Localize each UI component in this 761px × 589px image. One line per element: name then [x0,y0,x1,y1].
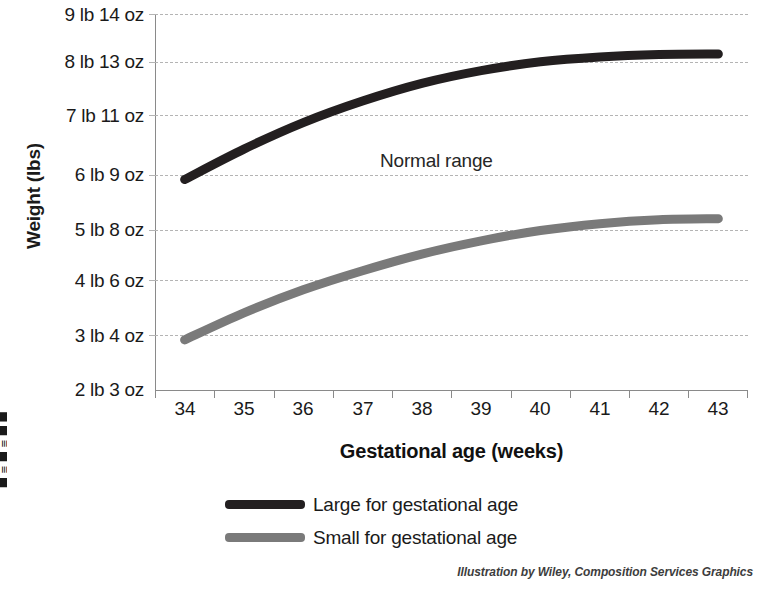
x-tick-mark [511,391,512,398]
x-tick-mark [451,391,452,398]
x-tick-mark [274,391,275,398]
x-tick-mark [333,391,334,398]
illustration-credit: Illustration by Wiley, Composition Servi… [457,565,753,579]
legend-item-large-for-gestational-age: Large for gestational age [225,488,645,521]
x-tick-label: 40 [510,398,570,420]
y-tick-label: 8 lb 13 oz [65,52,144,71]
x-tick-mark [155,391,156,398]
legend-swatch-small [225,533,305,542]
plot-area: Normal range [155,14,748,391]
x-axis-title: Gestational age (weeks) [155,440,748,463]
x-tick-mark [392,391,393,398]
y-tick-label: 9 lb 14 oz [65,5,144,24]
x-tick-mark [214,391,215,398]
x-tick-label: 35 [214,398,274,420]
x-tick-label: 41 [570,398,630,420]
legend-swatch-large [225,500,305,509]
x-axis-tick-labels: 34 35 36 37 38 39 40 41 42 43 [155,398,748,424]
y-tick-label: 2 lb 3 oz [75,380,144,399]
annotation-normal-range: Normal range [380,150,493,172]
x-tick-label: 36 [273,398,333,420]
x-tick-label: 34 [155,398,215,420]
x-tick-label: 38 [392,398,452,420]
y-tick-label: 3 lb 4 oz [75,326,144,345]
legend-label-small: Small for gestational age [313,527,517,549]
x-tick-mark [570,391,571,398]
series-curves [155,14,748,391]
y-axis-tick-labels: 9 lb 14 oz 8 lb 13 oz 7 lb 11 oz 6 lb 9 … [0,0,150,420]
x-tick-mark [747,391,748,398]
legend-label-large: Large for gestational age [313,494,518,516]
x-tick-label: 37 [333,398,393,420]
x-tick-label: 42 [629,398,689,420]
x-tick-mark [688,391,689,398]
y-tick-label: 7 lb 11 oz [66,106,144,125]
y-tick-label: 6 lb 9 oz [75,165,144,184]
legend-item-small-for-gestational-age: Small for gestational age [225,521,645,554]
x-tick-label: 43 [688,398,748,420]
x-tick-mark [629,391,630,398]
weight-by-gestational-age-chart: █ ≡ █ ≡ █ █ Weight (lbs) 9 lb 14 oz 8 lb… [0,0,761,589]
series-line [185,219,719,340]
y-tick-label: 4 lb 6 oz [75,271,144,290]
chart-legend: Large for gestational age Small for gest… [225,488,645,554]
y-tick-label: 5 lb 8 oz [75,220,144,239]
x-tick-label: 39 [451,398,511,420]
